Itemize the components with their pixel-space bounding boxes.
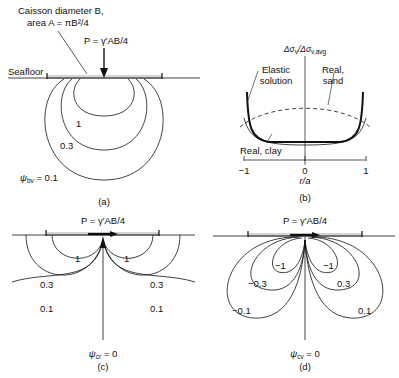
caption-b: (b) xyxy=(299,192,311,203)
x-tick-1: 1 xyxy=(363,165,368,176)
contour-label-c-right-01: 0.1 xyxy=(150,303,163,314)
contour-label-c-right-03: 0.3 xyxy=(150,279,163,290)
clay-label: Real, clay xyxy=(240,145,282,156)
y-axis-label-b: Δσv/Δσv,avg xyxy=(284,44,326,57)
sand-label-line2: sand xyxy=(323,75,344,86)
load-label-d: P = γ′AB/4 xyxy=(283,215,327,226)
load-label-c: P = γ′AB/4 xyxy=(81,215,125,226)
caisson-label-line1: Caisson diameter B, xyxy=(18,5,104,16)
contour-a-1 xyxy=(74,79,134,116)
seafloor-label: Seafloor xyxy=(8,66,43,77)
lobe-label-d-right-01: 0.1 xyxy=(358,305,371,316)
lobe-label-d-left-01: −0.1 xyxy=(232,305,251,316)
caption-d: (d) xyxy=(299,361,311,372)
contour-label-c-right-1: 1 xyxy=(124,253,129,264)
psi-cr-label: ψcr = 0 xyxy=(89,348,117,362)
caisson-label-line2: area A = πB²/4 xyxy=(27,17,89,28)
diagram-canvas xyxy=(0,0,399,378)
contour-c-left-01 xyxy=(12,240,103,282)
x-tick-neg1: −1 xyxy=(239,165,250,176)
caption-c: (c) xyxy=(97,361,108,372)
contour-label-a-03: 0.3 xyxy=(60,140,73,151)
contour-label-c-left-03: 0.3 xyxy=(40,279,53,290)
psi-bv-label: ψbv = 0.1 xyxy=(20,172,58,186)
lobe-label-d-left-1: −1 xyxy=(275,260,286,271)
psi-cv-label: ψcv = 0 xyxy=(290,348,320,362)
lobe-label-d-left-03: −0.3 xyxy=(248,278,267,289)
elastic-label-line2: solution xyxy=(260,75,293,86)
x-axis-label-b: r/a xyxy=(299,175,310,186)
elastic-label-line1: Elastic xyxy=(262,64,290,75)
lobe-label-d-right-03: 0.3 xyxy=(337,278,350,289)
sand-label-line1: Real, xyxy=(322,64,344,75)
contour-label-c-left-1: 1 xyxy=(75,253,80,264)
contour-label-a-1: 1 xyxy=(76,118,81,129)
caisson-leader-line xyxy=(58,31,87,74)
contour-label-c-left-01: 0.1 xyxy=(40,303,53,314)
load-label-a: P = γ′AB/4 xyxy=(84,35,128,46)
contour-c-right-01 xyxy=(103,240,195,282)
lobe-label-d-right-1: −1 xyxy=(323,260,334,271)
caption-a: (a) xyxy=(98,196,110,207)
